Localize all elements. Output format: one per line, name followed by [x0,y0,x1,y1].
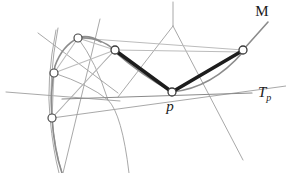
node-bottom-left [48,114,56,122]
node-group [48,34,247,122]
label-group: M Tp p [165,3,271,114]
chord-topleft-to-right [78,38,243,50]
tangent-space-label: Tp [258,84,271,103]
base-point-label: p [165,98,174,114]
chord-midleft-to-topleft [54,38,78,73]
manifold-curve-to-m-label [243,22,268,50]
figure-canvas: M Tp p [0,0,286,173]
manifold-curve-left-arc [51,37,101,173]
tangent-line-tp [62,93,252,99]
chord-uppermid-to-right [115,50,243,52]
geodesic-segment-right [172,51,242,92]
manifold-label: M [255,3,268,19]
surface-mesh [6,2,286,173]
geometry-figure: M Tp p [0,0,286,173]
node-upper-mid [111,46,119,54]
mesh-line-midleft-down [54,73,129,173]
tangent-space-label-subscript: p [265,92,271,103]
node-top-left [74,34,82,42]
chord-midleft-to-uppermid [54,50,115,73]
tangent-line-group [62,93,252,99]
node-mid-left [50,69,58,77]
node-p [168,88,176,96]
node-right [239,46,247,54]
geodesic-segment-left [116,51,172,92]
manifold-curve-group [51,22,268,173]
